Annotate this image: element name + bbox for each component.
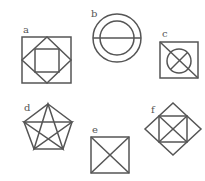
figure-d-label: d [24, 102, 31, 113]
figure-e-label: e [92, 124, 98, 135]
figure-a-diamond [22, 37, 71, 83]
figure-a-inner-square [35, 49, 59, 72]
figure-a-label: a [23, 24, 29, 35]
figure-f: f [145, 103, 201, 155]
figure-c: c [160, 28, 198, 78]
figure-e: e [91, 124, 129, 173]
figure-f-label: f [151, 104, 156, 115]
figure-c-label: c [162, 28, 168, 39]
figure-d: d [24, 102, 72, 149]
figure-canvas: a b c d e f [0, 0, 205, 181]
figure-a: a [22, 24, 71, 83]
figure-b: b [91, 8, 141, 62]
figure-a-outer-square [22, 37, 71, 83]
figure-b-label: b [91, 8, 97, 19]
